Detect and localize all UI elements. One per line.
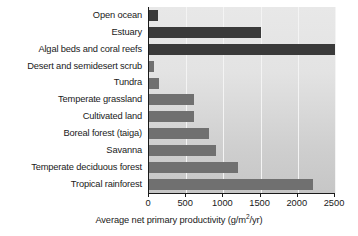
plot-area xyxy=(148,7,335,193)
bar-row xyxy=(149,75,335,92)
bar xyxy=(149,61,154,72)
x-axis-line xyxy=(148,193,335,194)
bar-row xyxy=(149,92,335,109)
gridline xyxy=(335,7,336,193)
bar-row xyxy=(149,108,335,125)
bar-row xyxy=(149,142,335,159)
bar-row xyxy=(149,159,335,176)
category-label: Tropical rainforest xyxy=(0,176,146,193)
bar xyxy=(149,44,335,55)
bars-layer xyxy=(149,7,335,193)
category-label: Temperate deciduous forest xyxy=(0,159,146,176)
x-tick-mark xyxy=(185,193,186,197)
category-label: Savanna xyxy=(0,142,146,159)
category-label: Estuary xyxy=(0,24,146,41)
x-tick-label: 2000 xyxy=(286,198,307,208)
x-tick-label: 2500 xyxy=(324,198,345,208)
x-tick-mark xyxy=(297,193,298,197)
bar-row xyxy=(149,24,335,41)
bar-row xyxy=(149,41,335,58)
category-label: Tundra xyxy=(0,75,146,92)
x-axis-title-tail: /yr) xyxy=(250,215,263,225)
x-tick-label: 1500 xyxy=(249,198,270,208)
bar xyxy=(149,10,158,21)
bar xyxy=(149,27,261,38)
bar xyxy=(149,128,209,139)
category-axis: Open oceanEstuaryAlgal beds and coral re… xyxy=(0,7,146,193)
x-tick-mark xyxy=(334,193,335,197)
bar xyxy=(149,78,159,89)
x-tick-label: 500 xyxy=(177,198,193,208)
category-label: Temperate grassland xyxy=(0,92,146,109)
bar xyxy=(149,145,216,156)
x-tick-label: 1000 xyxy=(212,198,233,208)
bar xyxy=(149,162,238,173)
bar xyxy=(149,111,194,122)
category-label: Boreal forest (taiga) xyxy=(0,125,146,142)
bar-row xyxy=(149,58,335,75)
bar-chart-figure: Open oceanEstuaryAlgal beds and coral re… xyxy=(0,0,358,236)
x-tick-label: 0 xyxy=(145,198,150,208)
bar-row xyxy=(149,176,335,193)
category-label: Open ocean xyxy=(0,7,146,24)
bar xyxy=(149,94,194,105)
x-axis-title-main: Average net primary productivity (g/m xyxy=(95,215,246,225)
x-tick-mark xyxy=(222,193,223,197)
bar xyxy=(149,179,313,190)
bar-row xyxy=(149,125,335,142)
category-label: Desert and semidesert scrub xyxy=(0,58,146,75)
x-tick-mark xyxy=(148,193,149,197)
bar-row xyxy=(149,7,335,24)
x-axis-title: Average net primary productivity (g/m2/y… xyxy=(0,215,358,225)
category-label: Algal beds and coral reefs xyxy=(0,41,146,58)
category-label: Cultivated land xyxy=(0,108,146,125)
x-tick-mark xyxy=(260,193,261,197)
